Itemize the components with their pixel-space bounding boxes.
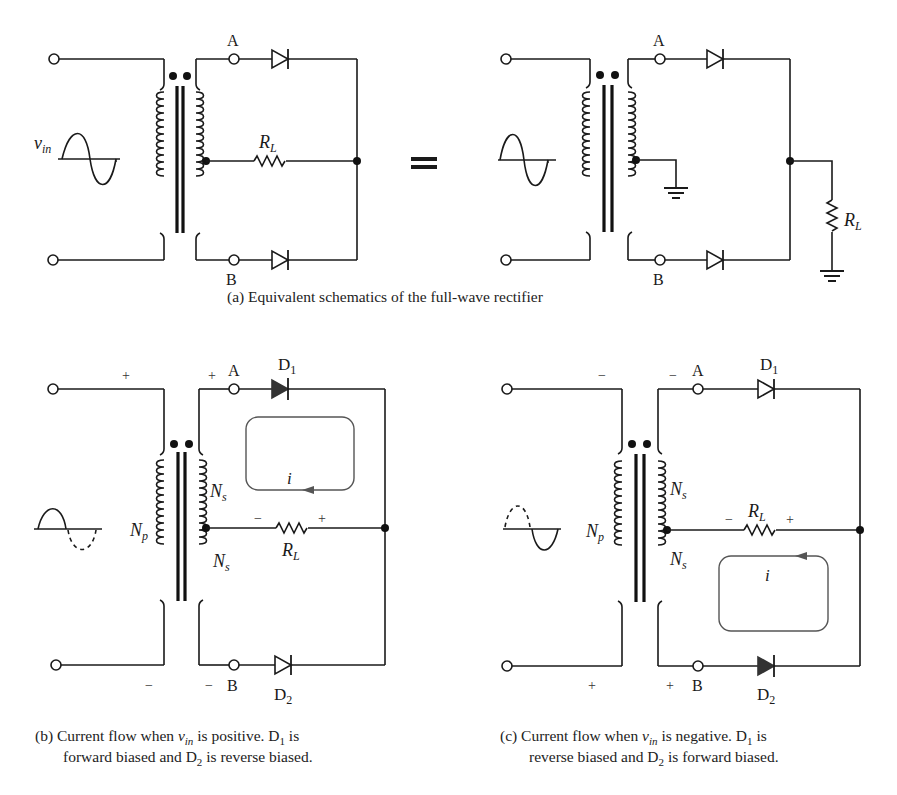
terminal-a xyxy=(655,54,665,64)
output-node xyxy=(353,157,361,165)
resistor-icon xyxy=(276,523,307,533)
ground-icon xyxy=(820,271,844,281)
ns-label-bottom: Ns xyxy=(669,549,687,572)
diode-bottom xyxy=(272,250,288,270)
rl-label: RL xyxy=(281,540,300,563)
panel-a-left-schematic: vin A B RL xyxy=(34,32,361,288)
panel-c-schematic: − + Np Ns Ns − A D1 xyxy=(502,355,864,707)
resistor-icon xyxy=(254,156,285,166)
polarity-dot xyxy=(596,71,604,79)
terminal-a-label: A xyxy=(227,32,239,49)
sine-source-icon xyxy=(58,134,120,185)
terminal-a xyxy=(229,384,239,394)
d2-label: D2 xyxy=(274,685,292,707)
terminal-b-label: B xyxy=(653,271,664,288)
polarity-dot xyxy=(170,440,178,448)
input-terminal-top xyxy=(48,384,58,394)
equals-sign-icon xyxy=(411,157,437,169)
polarity-dot xyxy=(611,71,619,79)
input-terminal-bottom xyxy=(501,255,511,265)
output-node xyxy=(381,524,389,532)
sign-primary-top: + xyxy=(122,368,130,383)
caption-b: (b) Current flow when vin is positive. D… xyxy=(35,727,313,768)
terminal-b xyxy=(229,660,239,670)
transformer xyxy=(157,59,204,260)
diode-d1-forward xyxy=(272,378,288,400)
sine-source-icon xyxy=(498,135,556,186)
diode-d2-forward xyxy=(758,655,774,677)
sign-secondary-top: + xyxy=(208,368,216,383)
sign-load-right: + xyxy=(318,511,326,526)
diode-top xyxy=(272,49,288,69)
input-terminal-top xyxy=(49,54,59,64)
np-label: Np xyxy=(585,521,604,544)
input-terminal-bottom xyxy=(502,661,512,671)
input-terminal-bottom xyxy=(51,660,61,670)
np-label: Np xyxy=(129,520,148,543)
sign-secondary-bottom: + xyxy=(666,678,674,693)
svg-text:(c) Current flow when vin is n: (c) Current flow when vin is negative. D… xyxy=(500,727,767,747)
resistor-icon xyxy=(827,200,837,231)
polarity-dot xyxy=(183,72,191,80)
ns-label-top: Ns xyxy=(669,479,687,502)
d1-label: D1 xyxy=(760,355,778,377)
input-terminal-bottom xyxy=(48,255,58,265)
resistor-icon xyxy=(744,525,775,535)
sign-load-left: − xyxy=(254,511,262,526)
positive-half-wave-icon xyxy=(34,509,102,550)
current-label: i xyxy=(765,566,770,585)
ground-icon xyxy=(664,188,688,198)
rl-label: RL xyxy=(843,210,862,233)
polarity-dot xyxy=(643,440,651,448)
input-terminal-top xyxy=(502,384,512,394)
transformer xyxy=(157,389,207,665)
transformer xyxy=(583,59,636,260)
panel-a-right-schematic: A B RL xyxy=(498,32,862,288)
d2-label: D2 xyxy=(757,685,775,707)
sign-primary-bottom: − xyxy=(145,678,153,693)
sign-load-left: − xyxy=(725,512,733,527)
caption-c: (c) Current flow when vin is negative. D… xyxy=(500,727,779,768)
svg-text:reverse biased and D2 is forwa: reverse biased and D2 is forward biased. xyxy=(529,748,779,768)
polarity-dot xyxy=(185,440,193,448)
negative-half-wave-icon xyxy=(503,506,561,550)
terminal-b-label: B xyxy=(226,271,237,288)
polarity-dot xyxy=(628,440,636,448)
sign-load-right: + xyxy=(786,512,794,527)
ns-label-bottom: Ns xyxy=(212,551,230,574)
terminal-b-label: B xyxy=(227,677,238,694)
sign-primary-top: − xyxy=(598,368,606,383)
polarity-dot xyxy=(169,72,177,80)
current-label: i xyxy=(287,469,292,488)
svg-text:forward biased and D2 is rever: forward biased and D2 is reverse biased. xyxy=(63,748,313,768)
terminal-a-label: A xyxy=(653,32,665,49)
svg-text:(b) Current flow when vin is p: (b) Current flow when vin is positive. D… xyxy=(35,727,299,747)
diode-d2-reverse xyxy=(275,655,291,675)
current-arrow-icon xyxy=(795,552,807,560)
input-terminal-top xyxy=(501,54,511,64)
rl-label: RL xyxy=(747,501,766,524)
terminal-a-label: A xyxy=(228,362,240,379)
terminal-a xyxy=(693,384,703,394)
current-arrow-icon xyxy=(302,486,314,494)
ns-label-top: Ns xyxy=(209,481,227,504)
terminal-b xyxy=(655,255,665,265)
current-loop xyxy=(719,556,828,631)
terminal-b xyxy=(693,661,703,671)
rl-label: RL xyxy=(258,132,277,155)
diode-d1-reverse xyxy=(758,379,774,399)
sign-secondary-bottom: − xyxy=(205,678,213,693)
terminal-b-label: B xyxy=(692,677,703,694)
transformer xyxy=(615,389,666,666)
output-node xyxy=(856,526,864,534)
caption-a: (a) Equivalent schematics of the full-wa… xyxy=(227,288,544,306)
diode-bottom xyxy=(707,250,723,270)
sign-secondary-top: − xyxy=(669,368,677,383)
terminal-a-label: A xyxy=(692,362,704,379)
terminal-a xyxy=(229,54,239,64)
sign-primary-bottom: + xyxy=(588,678,596,693)
d1-label: D1 xyxy=(278,355,296,377)
terminal-b xyxy=(229,255,239,265)
current-loop xyxy=(246,417,354,490)
vin-label: vin xyxy=(34,133,51,156)
